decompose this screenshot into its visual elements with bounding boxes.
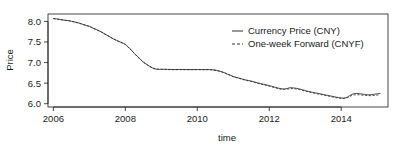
y-axis-title: Price — [4, 49, 15, 71]
y-tick-label: 6.5 — [28, 78, 41, 89]
chart-figure: 6.06.57.07.58.0 20062008201020122014 tim… — [0, 0, 406, 145]
y-tick-label: 6.0 — [28, 98, 41, 109]
x-tick-label: 2010 — [187, 113, 208, 124]
x-tick-label: 2014 — [331, 113, 352, 124]
y-tick-label: 7.5 — [28, 36, 41, 47]
y-tick-label: 7.0 — [28, 57, 41, 68]
line-chart: 6.06.57.07.58.0 20062008201020122014 tim… — [0, 0, 406, 145]
x-tick-label: 2012 — [259, 113, 280, 124]
y-tick-label: 8.0 — [28, 16, 41, 27]
legend-label: One-week Forward (CNYF) — [248, 38, 364, 49]
legend-label: Currency Price (CNY) — [248, 25, 340, 36]
x-tick-label: 2008 — [115, 113, 136, 124]
x-tick-label: 2006 — [43, 113, 64, 124]
x-axis-title: time — [218, 132, 236, 143]
